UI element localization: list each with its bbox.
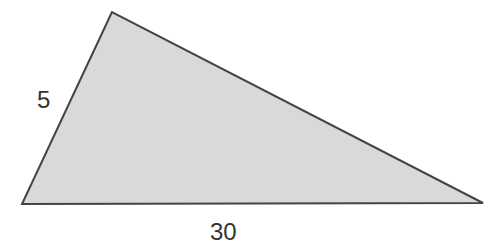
triangle-shape <box>22 12 483 204</box>
triangle-diagram <box>0 0 504 243</box>
left-side-length-label: 5 <box>37 88 50 112</box>
bottom-side-length-label: 30 <box>210 220 237 243</box>
